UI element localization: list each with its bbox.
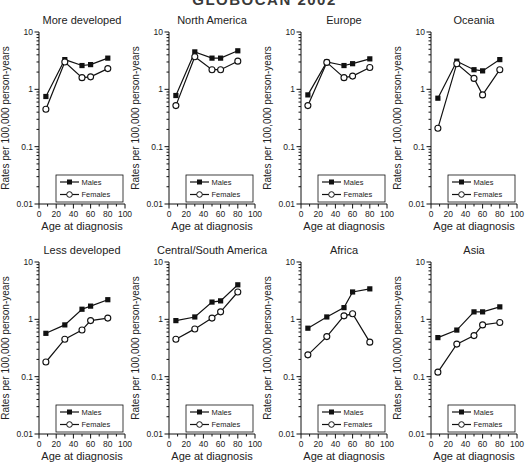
males-series bbox=[435, 304, 502, 340]
filled-square-marker bbox=[305, 326, 310, 331]
x-axis-label: Age at diagnosis bbox=[303, 220, 385, 232]
x-tick-label: 0 bbox=[299, 439, 304, 449]
x-tick-label: 40 bbox=[69, 209, 79, 219]
y-tick-label: 10 bbox=[416, 27, 426, 37]
legend: MalesFemales bbox=[318, 175, 385, 202]
open-circle-marker bbox=[79, 75, 85, 81]
legend-open-circle-marker bbox=[459, 192, 465, 198]
legend: MalesFemales bbox=[56, 175, 123, 202]
x-tick-label: 0 bbox=[299, 209, 304, 219]
x-tick-label: 0 bbox=[167, 439, 172, 449]
open-circle-marker bbox=[43, 359, 49, 365]
filled-square-marker bbox=[367, 56, 372, 61]
y-tick-label: 0.1 bbox=[413, 372, 425, 382]
filled-square-marker bbox=[43, 94, 48, 99]
females-series bbox=[305, 311, 373, 358]
filled-square-marker bbox=[367, 286, 372, 291]
males-series bbox=[43, 56, 110, 100]
series-line bbox=[438, 323, 500, 373]
open-circle-marker bbox=[43, 106, 49, 112]
chart-svg: AsiaRates per 100,000 person-years1010.1… bbox=[392, 238, 526, 468]
open-circle-marker bbox=[209, 315, 215, 321]
chart-panel-more-developed: More developedRates per 100,000 person-y… bbox=[0, 8, 134, 240]
x-axis-label: Age at diagnosis bbox=[41, 450, 123, 462]
x-tick-label: 40 bbox=[331, 209, 341, 219]
legend-females-label: Females bbox=[474, 190, 503, 199]
chart-svg: AfricaRates per 100,000 person-years1010… bbox=[262, 238, 396, 468]
panel-title: Europe bbox=[326, 14, 361, 26]
legend-filled-square-marker bbox=[197, 410, 202, 415]
legend-open-circle-marker bbox=[197, 422, 203, 428]
y-tick-label: 10 bbox=[154, 27, 164, 37]
panel-title: More developed bbox=[43, 14, 122, 26]
filled-square-marker bbox=[497, 304, 502, 309]
legend: MalesFemales bbox=[186, 175, 253, 202]
y-tick-label: 0.01 bbox=[408, 199, 425, 209]
open-circle-marker bbox=[480, 92, 486, 98]
males-series bbox=[173, 48, 240, 98]
open-circle-marker bbox=[497, 67, 503, 73]
y-tick-label: 0.1 bbox=[283, 372, 295, 382]
chart-panel-africa: AfricaRates per 100,000 person-years1010… bbox=[262, 238, 396, 468]
chart-svg: Less developedRates per 100,000 person-y… bbox=[0, 238, 134, 468]
chart-svg: OceaniaRates per 100,000 person-years101… bbox=[392, 8, 526, 240]
males-series bbox=[305, 56, 372, 97]
open-circle-marker bbox=[454, 341, 460, 347]
females-series bbox=[305, 59, 373, 108]
y-tick-label: 1 bbox=[420, 314, 425, 324]
legend-open-circle-marker bbox=[67, 422, 73, 428]
open-circle-marker bbox=[350, 73, 356, 79]
filled-square-marker bbox=[88, 62, 93, 67]
females-series bbox=[173, 54, 241, 109]
filled-square-marker bbox=[192, 314, 197, 319]
legend-filled-square-marker bbox=[459, 180, 464, 185]
open-circle-marker bbox=[173, 103, 179, 109]
chart-panel-less-developed: Less developedRates per 100,000 person-y… bbox=[0, 238, 134, 468]
x-tick-label: 0 bbox=[429, 439, 434, 449]
x-tick-label: 20 bbox=[181, 439, 191, 449]
y-axis-label: Rates per 100,000 person-years bbox=[0, 276, 11, 419]
legend-males-label: Males bbox=[82, 178, 102, 187]
legend: MalesFemales bbox=[186, 405, 253, 432]
legend-filled-square-marker bbox=[459, 410, 464, 415]
filled-square-marker bbox=[218, 298, 223, 303]
filled-square-marker bbox=[209, 299, 214, 304]
legend-filled-square-marker bbox=[329, 180, 334, 185]
y-tick-label: 0.1 bbox=[21, 372, 33, 382]
open-circle-marker bbox=[88, 74, 94, 80]
x-axis-label: Age at diagnosis bbox=[171, 220, 253, 232]
y-tick-label: 0.1 bbox=[21, 142, 33, 152]
x-tick-label: 60 bbox=[478, 439, 488, 449]
x-axis-label: Age at diagnosis bbox=[303, 450, 385, 462]
series-line bbox=[46, 318, 108, 362]
series-line bbox=[438, 60, 500, 99]
panel-title: Asia bbox=[463, 244, 485, 256]
y-tick-label: 0.1 bbox=[151, 142, 163, 152]
legend-filled-square-marker bbox=[329, 410, 334, 415]
y-tick-label: 1 bbox=[290, 314, 295, 324]
females-series bbox=[435, 61, 503, 131]
open-circle-marker bbox=[324, 334, 330, 340]
series-line bbox=[46, 58, 108, 96]
y-axis-label: Rates per 100,000 person-years bbox=[262, 46, 273, 189]
series-line bbox=[176, 51, 238, 96]
x-tick-label: 0 bbox=[167, 209, 172, 219]
legend: MalesFemales bbox=[448, 175, 515, 202]
open-circle-marker bbox=[341, 75, 347, 81]
open-circle-marker bbox=[435, 125, 441, 131]
legend-filled-square-marker bbox=[67, 180, 72, 185]
open-circle-marker bbox=[62, 59, 68, 65]
filled-square-marker bbox=[471, 67, 476, 72]
x-tick-label: 40 bbox=[199, 209, 209, 219]
females-series bbox=[173, 289, 241, 342]
legend-open-circle-marker bbox=[329, 422, 335, 428]
x-tick-label: 100 bbox=[248, 209, 262, 219]
x-tick-label: 20 bbox=[313, 439, 323, 449]
filled-square-marker bbox=[435, 335, 440, 340]
x-tick-label: 20 bbox=[181, 209, 191, 219]
x-tick-label: 60 bbox=[348, 439, 358, 449]
x-axis-label: Age at diagnosis bbox=[171, 450, 253, 462]
y-tick-label: 10 bbox=[24, 257, 34, 267]
series-line bbox=[176, 292, 238, 339]
filled-square-marker bbox=[480, 68, 485, 73]
